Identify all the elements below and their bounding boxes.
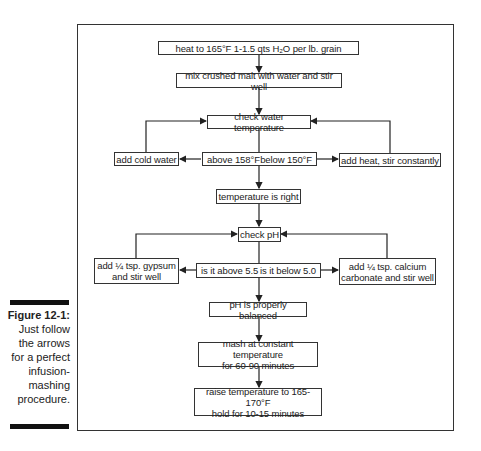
- node-ph-decision: is it above 5.5 is it below 5.0: [196, 263, 321, 278]
- node-label: mix crushed malt with water and stir wel…: [177, 70, 341, 92]
- node-label-line: add ¼ tsp. calcium: [349, 261, 426, 272]
- node-label-line: and stir well: [112, 271, 161, 282]
- node-label-line: mash at constant temperature: [199, 338, 317, 360]
- decision-above-5-5: is it above 5.5: [201, 265, 258, 276]
- node-check-water-temp: check water temperature: [207, 115, 311, 129]
- node-raise-temperature: raise temperature to 165-170°F hold for …: [194, 388, 322, 416]
- node-label-line: hold for 10-15 minutes: [212, 408, 304, 419]
- node-label: add cold water: [116, 154, 176, 165]
- flowchart-connectors: [0, 0, 481, 451]
- node-label-line: carbonate and stir well: [341, 272, 434, 283]
- node-heat-water: heat to 165°F 1-1.5 qts H₂O per lb. grai…: [158, 41, 359, 55]
- node-add-gypsum: add ¼ tsp. gypsum and stir well: [94, 258, 179, 284]
- node-label-line: for 60-90 minutes: [222, 360, 294, 371]
- node-mix-malt: mix crushed malt with water and stir wel…: [176, 73, 342, 88]
- decision-below-5-0: is it below 5.0: [260, 265, 316, 276]
- node-add-calcium-carbonate: add ¼ tsp. calcium carbonate and stir we…: [339, 258, 436, 285]
- node-label: check water temperature: [208, 111, 310, 133]
- decision-below-150: below 150°F: [260, 154, 312, 165]
- node-check-ph: check pH: [238, 227, 281, 242]
- node-label-line: add ¼ tsp. gypsum: [97, 260, 176, 271]
- node-mash: mash at constant temperature for 60-90 m…: [198, 342, 318, 367]
- node-label: check pH: [240, 229, 279, 240]
- node-label: pH is properly balanced: [210, 299, 306, 321]
- node-add-heat: add heat, stir constantly: [339, 153, 441, 167]
- decision-above-158: above 158°F: [207, 154, 260, 165]
- node-label-line: raise temperature to 165-170°F: [195, 386, 321, 408]
- node-ph-balanced: pH is properly balanced: [209, 302, 307, 317]
- node-label: heat to 165°F 1-1.5 qts H₂O per lb. grai…: [175, 43, 341, 54]
- node-label: add heat, stir constantly: [341, 155, 439, 166]
- node-label: temperature is right: [219, 191, 299, 202]
- node-add-cold-water: add cold water: [114, 152, 179, 166]
- node-temperature-right: temperature is right: [216, 189, 301, 204]
- node-temp-decision: above 158°F below 150°F: [202, 152, 317, 166]
